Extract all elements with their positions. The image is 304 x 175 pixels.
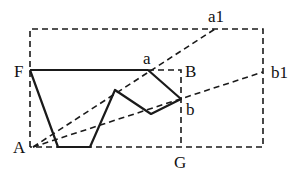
outer-dashed-box bbox=[30, 29, 263, 147]
geometry-diagram: F a B a1 b1 b A G bbox=[0, 0, 304, 175]
dashed-line-A-a1 bbox=[33, 29, 215, 147]
label-B: B bbox=[185, 62, 196, 81]
label-a: a bbox=[143, 49, 151, 68]
label-b1: b1 bbox=[271, 63, 288, 82]
label-F: F bbox=[14, 62, 23, 81]
solid-polyline-shape bbox=[30, 70, 181, 147]
dashed-line-A-b1 bbox=[33, 72, 263, 147]
label-a1: a1 bbox=[208, 7, 224, 26]
label-b: b bbox=[186, 100, 195, 119]
label-A: A bbox=[13, 138, 26, 157]
label-G: G bbox=[174, 153, 186, 172]
